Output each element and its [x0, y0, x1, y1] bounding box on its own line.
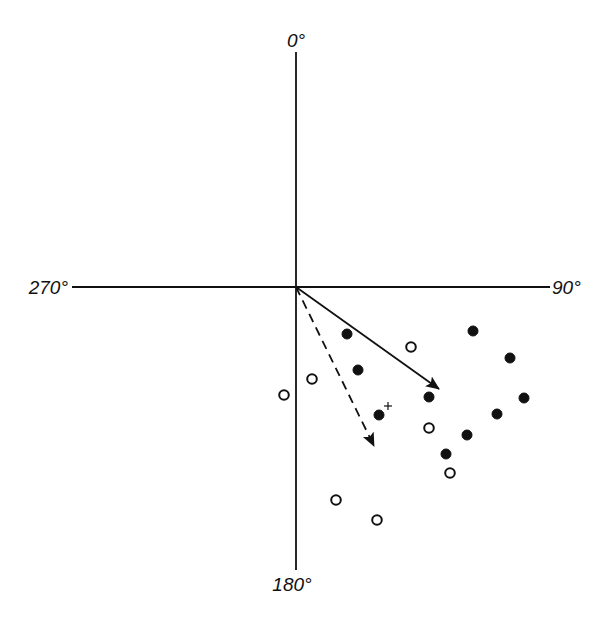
solid-mean-vector-arrow: [296, 287, 439, 389]
filled-data-point: [492, 409, 502, 419]
open-data-point: [279, 390, 289, 400]
open-data-point: [424, 423, 434, 433]
label-0-degrees: 0°: [287, 30, 306, 51]
open-data-point: [372, 515, 382, 525]
open-data-point: [331, 495, 341, 505]
markers-group: [384, 402, 392, 410]
open-data-point: [406, 342, 416, 352]
open-points-group: [279, 342, 455, 525]
filled-data-point: [342, 329, 352, 339]
circular-diagram: 0° 90° 180° 270°: [0, 0, 589, 617]
label-180-degrees: 180°: [272, 574, 312, 595]
dashed-mean-vector-arrow: [296, 287, 374, 446]
open-data-point: [445, 468, 455, 478]
filled-data-point: [424, 392, 434, 402]
filled-data-point: [353, 365, 363, 375]
label-270-degrees: 270°: [28, 277, 69, 298]
open-data-point: [307, 374, 317, 384]
filled-data-point: [468, 326, 478, 336]
plus-marker-icon: [384, 402, 392, 410]
label-90-degrees: 90°: [552, 277, 581, 298]
filled-data-point: [374, 410, 384, 420]
filled-data-point: [505, 353, 515, 363]
filled-data-point: [462, 430, 472, 440]
filled-data-point: [519, 393, 529, 403]
filled-data-point: [441, 449, 451, 459]
